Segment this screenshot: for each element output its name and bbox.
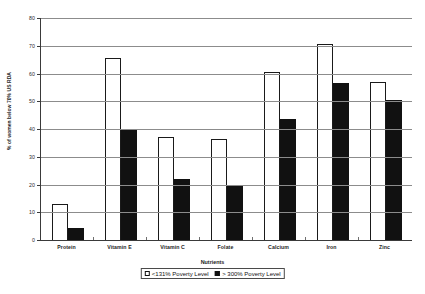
x-axis-tick-label: Zinc [358, 244, 411, 250]
x-axis-tick-label: Iron [305, 244, 358, 250]
y-axis-tick [37, 101, 41, 102]
y-axis-tick-label: 40 [29, 126, 35, 132]
bar [174, 179, 190, 240]
gridline [41, 74, 412, 75]
y-axis-tick [37, 185, 41, 186]
bar [68, 228, 84, 240]
y-axis-title: % of women below 70% US RDA [6, 72, 12, 150]
y-axis-tick [37, 18, 41, 19]
legend-swatch-dark-icon [215, 271, 220, 276]
y-axis-tick-label: 10 [29, 209, 35, 215]
y-axis-tick-label: 60 [29, 71, 35, 77]
y-axis-tick [37, 212, 41, 213]
x-axis-tick-label: Vitamin E [93, 244, 146, 250]
x-axis-tick-labels: ProteinVitamin EVitamin CFolateCalciumIr… [40, 244, 411, 250]
y-axis-tick-label: 80 [29, 15, 35, 21]
legend-item: > 300% Poverty Level [215, 271, 281, 277]
y-axis-tick [37, 157, 41, 158]
legend-swatch-light-icon [144, 271, 149, 276]
gridline [41, 46, 412, 47]
gridline [41, 212, 412, 213]
legend-label: <131% Poverty Level [152, 271, 209, 277]
gridline [41, 129, 412, 130]
x-axis-title: Nutrients [0, 259, 425, 265]
y-axis-tick [37, 74, 41, 75]
bar [211, 139, 227, 240]
gridline [41, 185, 412, 186]
y-axis-tick-label: 70 [29, 43, 35, 49]
x-axis-tick-label: Vitamin C [146, 244, 199, 250]
y-axis-tick-label: 30 [29, 154, 35, 160]
x-axis-tick-label: Folate [199, 244, 252, 250]
chart-legend: <131% Poverty Level > 300% Poverty Level [140, 268, 284, 279]
y-axis-tick-label: 50 [29, 98, 35, 104]
legend-label: > 300% Poverty Level [222, 271, 281, 277]
bar [386, 100, 402, 240]
plot-area: 01020304050607080 [40, 18, 412, 241]
x-axis-tick-label: Protein [40, 244, 93, 250]
legend-item: <131% Poverty Level [144, 271, 208, 277]
bar [158, 137, 174, 240]
y-axis-tick-label: 20 [29, 182, 35, 188]
gridline [41, 101, 412, 102]
bar [52, 204, 68, 240]
bar [333, 83, 349, 240]
y-axis-tick [37, 129, 41, 130]
bar [280, 119, 296, 240]
x-axis-tick-label: Calcium [252, 244, 305, 250]
y-axis-tick [37, 46, 41, 47]
chart-page: % of women below 70% US RDA 010203040506… [0, 0, 425, 294]
gridline [41, 157, 412, 158]
bar [370, 82, 386, 240]
gridline [41, 18, 412, 19]
y-axis-tick-label: 0 [32, 237, 35, 243]
y-axis-tick [37, 240, 41, 241]
